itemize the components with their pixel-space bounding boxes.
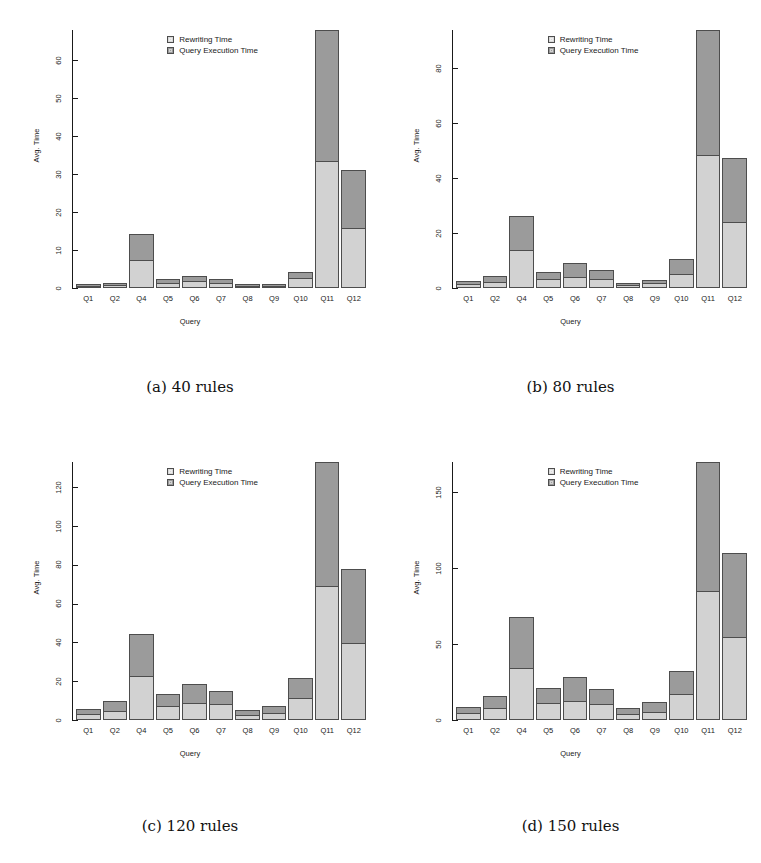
bar-segment-query-execution-time[interactable] — [483, 696, 508, 707]
bar-segment-query-execution-time[interactable] — [315, 462, 340, 586]
bar-segment-rewriting-time[interactable] — [483, 708, 508, 720]
bar-segment-rewriting-time[interactable] — [182, 703, 207, 720]
stacked-bar-q6[interactable] — [563, 263, 588, 288]
stacked-bar-q8[interactable] — [235, 710, 260, 720]
stacked-bar-q5[interactable] — [536, 272, 561, 288]
stacked-bar-q9[interactable] — [642, 702, 667, 720]
stacked-bar-q9[interactable] — [262, 284, 287, 288]
stacked-bar-q2[interactable] — [483, 696, 508, 720]
stacked-bar-q7[interactable] — [209, 279, 234, 288]
bar-segment-rewriting-time[interactable] — [722, 222, 747, 288]
stacked-bar-q2[interactable] — [483, 276, 508, 288]
stacked-bar-q5[interactable] — [156, 279, 181, 288]
bar-segment-rewriting-time[interactable] — [129, 260, 154, 288]
bar-segment-rewriting-time[interactable] — [722, 637, 747, 720]
bar-segment-query-execution-time[interactable] — [129, 234, 154, 260]
bar-segment-rewriting-time[interactable] — [235, 715, 260, 720]
bar-segment-rewriting-time[interactable] — [616, 285, 641, 288]
stacked-bar-q6[interactable] — [563, 677, 588, 720]
bar-segment-rewriting-time[interactable] — [456, 713, 481, 720]
stacked-bar-q11[interactable] — [696, 30, 721, 288]
stacked-bar-q7[interactable] — [209, 691, 234, 720]
bar-segment-rewriting-time[interactable] — [315, 586, 340, 720]
bar-segment-rewriting-time[interactable] — [563, 277, 588, 288]
bar-segment-rewriting-time[interactable] — [509, 250, 534, 288]
bar-segment-query-execution-time[interactable] — [589, 270, 614, 279]
stacked-bar-q11[interactable] — [696, 462, 721, 720]
bar-segment-rewriting-time[interactable] — [642, 712, 667, 720]
bar-segment-rewriting-time[interactable] — [209, 283, 234, 288]
bar-segment-rewriting-time[interactable] — [262, 713, 287, 720]
stacked-bar-q1[interactable] — [456, 707, 481, 720]
bar-segment-rewriting-time[interactable] — [563, 701, 588, 720]
bar-segment-rewriting-time[interactable] — [129, 676, 154, 720]
stacked-bar-q5[interactable] — [156, 694, 181, 720]
bar-segment-rewriting-time[interactable] — [456, 284, 481, 288]
stacked-bar-q10[interactable] — [288, 678, 313, 720]
stacked-bar-q10[interactable] — [288, 272, 313, 288]
bar-segment-rewriting-time[interactable] — [509, 668, 534, 720]
bar-segment-query-execution-time[interactable] — [509, 216, 534, 251]
bar-segment-rewriting-time[interactable] — [288, 698, 313, 720]
bar-segment-query-execution-time[interactable] — [129, 634, 154, 677]
bar-segment-query-execution-time[interactable] — [341, 170, 366, 228]
stacked-bar-q9[interactable] — [262, 706, 287, 720]
bar-segment-query-execution-time[interactable] — [103, 701, 128, 711]
stacked-bar-q10[interactable] — [669, 259, 694, 288]
bar-segment-rewriting-time[interactable] — [642, 283, 667, 288]
bar-segment-rewriting-time[interactable] — [616, 714, 641, 720]
bar-segment-rewriting-time[interactable] — [589, 704, 614, 720]
stacked-bar-q7[interactable] — [589, 689, 614, 720]
bar-segment-rewriting-time[interactable] — [341, 228, 366, 288]
bar-segment-query-execution-time[interactable] — [722, 553, 747, 636]
bar-segment-query-execution-time[interactable] — [669, 671, 694, 694]
bar-segment-rewriting-time[interactable] — [156, 706, 181, 720]
bar-segment-rewriting-time[interactable] — [589, 279, 614, 288]
bar-segment-rewriting-time[interactable] — [341, 643, 366, 720]
bar-segment-query-execution-time[interactable] — [262, 706, 287, 713]
bar-segment-rewriting-time[interactable] — [76, 286, 101, 288]
bar-segment-rewriting-time[interactable] — [209, 704, 234, 720]
bar-segment-query-execution-time[interactable] — [696, 30, 721, 155]
stacked-bar-q5[interactable] — [536, 688, 561, 720]
stacked-bar-q4[interactable] — [129, 634, 154, 720]
bar-segment-rewriting-time[interactable] — [288, 278, 313, 288]
bar-segment-query-execution-time[interactable] — [563, 677, 588, 701]
bar-segment-query-execution-time[interactable] — [288, 678, 313, 697]
bar-segment-query-execution-time[interactable] — [722, 158, 747, 223]
stacked-bar-q4[interactable] — [509, 216, 534, 288]
stacked-bar-q2[interactable] — [103, 283, 128, 288]
bar-segment-rewriting-time[interactable] — [536, 703, 561, 720]
stacked-bar-q1[interactable] — [456, 281, 481, 288]
bar-segment-rewriting-time[interactable] — [103, 711, 128, 720]
bar-segment-rewriting-time[interactable] — [262, 286, 287, 288]
bar-segment-rewriting-time[interactable] — [696, 155, 721, 288]
stacked-bar-q12[interactable] — [341, 569, 366, 720]
bar-segment-rewriting-time[interactable] — [235, 286, 260, 288]
stacked-bar-q12[interactable] — [722, 553, 747, 720]
bar-segment-query-execution-time[interactable] — [536, 688, 561, 703]
bar-segment-query-execution-time[interactable] — [209, 691, 234, 705]
bar-segment-rewriting-time[interactable] — [103, 285, 128, 288]
stacked-bar-q8[interactable] — [616, 283, 641, 288]
bar-segment-rewriting-time[interactable] — [483, 282, 508, 288]
bar-segment-query-execution-time[interactable] — [156, 694, 181, 707]
bar-segment-rewriting-time[interactable] — [315, 161, 340, 288]
stacked-bar-q4[interactable] — [129, 234, 154, 288]
stacked-bar-q12[interactable] — [341, 170, 366, 288]
stacked-bar-q2[interactable] — [103, 701, 128, 720]
bar-segment-query-execution-time[interactable] — [182, 684, 207, 702]
stacked-bar-q6[interactable] — [182, 684, 207, 720]
stacked-bar-q1[interactable] — [76, 284, 101, 288]
bar-segment-rewriting-time[interactable] — [669, 274, 694, 288]
bar-segment-rewriting-time[interactable] — [182, 281, 207, 288]
stacked-bar-q11[interactable] — [315, 462, 340, 720]
stacked-bar-q1[interactable] — [76, 709, 101, 720]
bar-segment-rewriting-time[interactable] — [536, 279, 561, 288]
stacked-bar-q12[interactable] — [722, 158, 747, 288]
stacked-bar-q7[interactable] — [589, 270, 614, 288]
bar-segment-query-execution-time[interactable] — [341, 569, 366, 644]
bar-segment-query-execution-time[interactable] — [669, 259, 694, 274]
bar-segment-query-execution-time[interactable] — [509, 617, 534, 669]
bar-segment-query-execution-time[interactable] — [589, 689, 614, 704]
